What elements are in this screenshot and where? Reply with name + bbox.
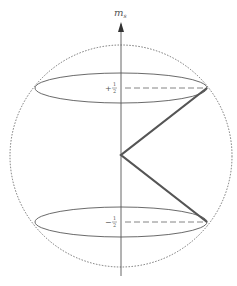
spin-vectors xyxy=(121,88,207,222)
svg-text:+: + xyxy=(105,84,112,93)
minus-half-label: − 1 2 xyxy=(105,215,117,228)
svg-text:2: 2 xyxy=(113,222,116,228)
svg-text:−: − xyxy=(105,218,112,227)
spin-sphere-diagram: ms + 1 2 − 1 2 xyxy=(0,0,237,286)
axis-arrow-icon xyxy=(118,22,124,32)
svg-text:2: 2 xyxy=(113,88,116,94)
svg-text:1: 1 xyxy=(113,215,116,221)
axis-label: ms xyxy=(114,7,127,19)
plus-half-label: + 1 2 xyxy=(105,81,117,94)
svg-text:1: 1 xyxy=(113,81,116,87)
